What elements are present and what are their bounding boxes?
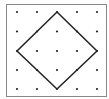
grid-dot [16,11,18,13]
grid-dot [76,11,78,13]
grid-dot [56,69,58,71]
grid-dot [16,69,18,71]
grid-dot [76,88,78,90]
grid-dot [36,88,38,90]
grid-dot [56,50,58,52]
grid-dot [16,88,18,90]
geoboard-diagram [0,0,109,99]
grid-dot [96,69,98,71]
grid-dot [16,30,18,32]
grid-dot [96,88,98,90]
grid-dot [96,11,98,13]
grid-dot [96,30,98,32]
grid-dot [36,50,38,52]
grid-dot [36,11,38,13]
grid-dot [76,50,78,52]
grid-dot [56,30,58,32]
